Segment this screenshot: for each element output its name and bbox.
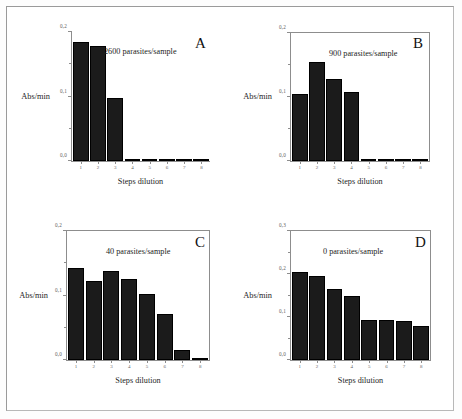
y-axis-tick-label: 0,2 [55,222,62,228]
x-axis-tick [300,360,301,363]
x-axis-tick-label: 5 [367,165,370,170]
bar [361,320,377,360]
bar [174,350,190,360]
x-axis-tick-label: 6 [166,165,169,170]
x-axis-tick [81,161,82,164]
x-axis-tick-label: 8 [420,364,423,369]
x-axis-tick-label: 3 [114,165,117,170]
y-axis-tick [68,160,72,161]
bar [396,321,412,360]
y-axis-title-d: Abs/min [236,291,272,300]
bar [86,281,102,360]
y-axis-tick-label: 0,1 [279,88,286,94]
bar [107,98,123,161]
x-axis-tick-label: 1 [298,364,301,369]
y-axis-minor-tick [288,295,291,296]
y-axis-tick [287,316,291,317]
x-axis-tick-label: 2 [97,165,100,170]
panel-letter-b: B [413,36,423,51]
y-axis-tick [287,359,291,360]
y-axis-tick-label: 0,0 [279,351,286,357]
x-axis-tick [98,161,99,164]
x-axis-tick [369,161,370,164]
x-axis-tick [132,161,133,164]
bar [139,294,155,360]
panel-annotation-a: 2600 parasites/sample [104,47,177,56]
x-axis-tick [421,360,422,363]
x-axis-tick [317,360,318,363]
bar [68,268,84,360]
x-axis-tick-label: 7 [402,165,405,170]
x-axis-tick-label: 3 [333,165,336,170]
bar [326,79,342,161]
x-axis-tick [150,161,151,164]
panel-letter-a: A [195,36,206,51]
y-axis-tick [63,359,67,360]
y-axis-minor-tick [288,252,291,253]
x-axis-tick [201,161,202,164]
x-axis-tick-label: 8 [419,165,422,170]
x-axis-tick-label: 4 [351,364,354,369]
x-axis-tick-label: 6 [385,165,388,170]
x-axis-tick-label: 1 [298,165,301,170]
x-axis-tick [129,360,130,363]
x-axis-title-a: Steps dilution [71,177,210,186]
x-axis-tick-label: 7 [181,364,184,369]
x-axis-tick [165,360,166,363]
panel-annotation-d: 0 parasites/sample [323,247,383,256]
panel-c: 0,00,10,2 12345678 Abs/min Steps dilutio… [14,212,231,407]
panel-d: 0,00,10,20,3 12345678 Abs/min Steps dilu… [240,212,455,407]
y-axis-tick [287,230,291,231]
y-axis-minor-tick [64,327,67,328]
x-axis-tick [300,161,301,164]
y-axis-tick [287,273,291,274]
y-axis-tick-label: 0,1 [279,308,286,314]
x-axis-title-d: Steps dilution [290,376,431,385]
y-axis-tick-label: 0,2 [279,265,286,271]
x-axis-tick-label: 2 [92,364,95,369]
x-axis-tick [420,161,421,164]
x-axis-tick-label: 2 [316,165,319,170]
bar [73,42,89,161]
bar [292,272,308,360]
x-axis-title-c: Steps dilution [66,376,210,385]
x-axis-tick-label: 8 [200,165,203,170]
x-axis-tick-label: 7 [183,165,186,170]
x-axis-tick [147,360,148,363]
y-axis-tick-label: 0,3 [279,222,286,228]
x-axis-tick [317,161,318,164]
y-axis-minor-tick [69,63,72,64]
bar [344,92,360,161]
x-axis-tick-label: 5 [146,364,149,369]
y-axis-tick-label: 0,2 [279,24,286,30]
y-axis-tick [68,31,72,32]
y-axis-title-b: Abs/min [236,92,272,101]
bar [157,314,173,360]
x-axis-tick-label: 5 [148,165,151,170]
y-axis-tick [63,295,67,296]
y-axis-tick-label: 0,0 [55,351,62,357]
x-axis-tick [369,360,370,363]
y-axis-tick-label: 0,0 [60,152,67,158]
y-axis-tick-label: 0,2 [60,23,67,29]
x-axis-tick-label: 1 [75,364,78,369]
bar [379,320,395,360]
x-axis-tick [94,360,95,363]
x-axis-tick-label: 4 [131,165,134,170]
panel-annotation-c: 40 parasites/sample [106,247,170,256]
bar [292,94,308,161]
bar [327,289,343,360]
x-axis-tick-label: 3 [333,364,336,369]
y-axis-title-a: Abs/min [14,92,50,101]
panel-b: 0,00,10,2 12345678 Abs/min Steps dilutio… [240,14,455,205]
x-axis-tick [351,161,352,164]
x-axis-tick-label: 3 [110,364,113,369]
x-axis-tick [184,161,185,164]
y-axis-minor-tick [288,128,291,129]
x-axis-tick [404,360,405,363]
bar [344,296,360,360]
y-axis-tick [287,32,291,33]
y-axis-minor-tick [64,262,67,263]
x-axis-tick-label: 6 [385,364,388,369]
x-axis-tick-label: 8 [199,364,202,369]
